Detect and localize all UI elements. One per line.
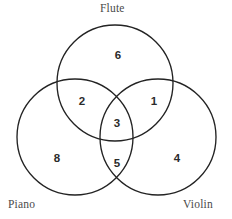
region-count-flute-only: 6 bbox=[115, 49, 121, 61]
region-count-violin-only: 4 bbox=[174, 152, 180, 164]
set-label-violin: Violin bbox=[183, 198, 213, 210]
region-count-flute-piano: 2 bbox=[79, 95, 85, 107]
set-label-flute: Flute bbox=[100, 2, 125, 14]
set-label-piano: Piano bbox=[8, 198, 35, 210]
region-count-piano-only: 8 bbox=[54, 152, 60, 164]
region-count-flute-violin: 1 bbox=[151, 95, 157, 107]
circle-piano bbox=[17, 79, 133, 195]
venn-diagram-canvas: Flute Piano Violin 6 2 1 3 8 5 4 bbox=[0, 0, 232, 219]
circle-violin bbox=[100, 79, 216, 195]
region-count-flute-piano-violin: 3 bbox=[114, 117, 120, 129]
venn-circles-group bbox=[0, 0, 232, 219]
region-count-piano-violin: 5 bbox=[114, 157, 120, 169]
